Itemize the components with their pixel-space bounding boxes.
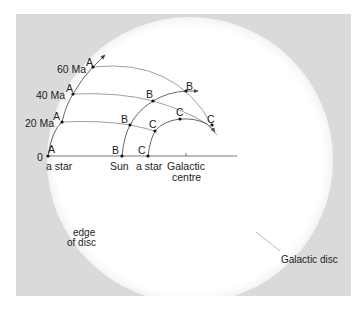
time-label-0: 0 <box>37 151 43 163</box>
time-label-40: 40 Ma <box>36 89 65 101</box>
label-galactic-disc: Galactic disc <box>281 254 338 265</box>
label-b-60: B <box>186 80 193 92</box>
time-label-20: 20 Ma <box>25 117 54 129</box>
label-star-a: a star <box>46 160 73 172</box>
label-star-c: a star <box>136 160 163 172</box>
time-label-60: 60 Ma <box>57 63 86 75</box>
label-c-60: C <box>207 113 215 125</box>
label-c-20: C <box>149 118 157 130</box>
label-sun: Sun <box>110 160 129 172</box>
label-b-0: B <box>112 144 119 156</box>
label-a-40: A <box>66 82 73 94</box>
label-b-20: B <box>121 113 128 125</box>
label-a-0: A <box>48 143 55 155</box>
label-galactic-centre-2: centre <box>172 171 201 183</box>
label-a-60: A <box>86 56 93 68</box>
label-c-40: C <box>176 106 184 118</box>
label-a-20: A <box>53 110 60 122</box>
label-c-0: C <box>138 144 146 156</box>
label-edge-2: of disc <box>67 237 96 248</box>
galactic-orbits-diagram: 0 20 Ma 40 Ma 60 Ma A A A A B B B B C C … <box>0 0 364 312</box>
label-b-40: B <box>146 88 153 100</box>
